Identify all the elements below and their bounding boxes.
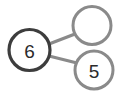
part-circle-top-empty[interactable] bbox=[73, 7, 111, 45]
whole-circle[interactable]: 6 bbox=[9, 30, 50, 71]
part-circle-bottom[interactable]: 5 bbox=[75, 51, 113, 89]
number-bond-diagram: 5 6 bbox=[0, 0, 117, 93]
connector-whole-to-bottom-part bbox=[49, 56, 77, 63]
whole-label: 6 bbox=[24, 41, 35, 62]
part-top-circle-outline bbox=[73, 7, 111, 45]
connector-whole-to-top-part bbox=[49, 34, 75, 44]
number-bond-canvas: 5 6 bbox=[0, 0, 117, 93]
part-bottom-label: 5 bbox=[89, 61, 100, 82]
